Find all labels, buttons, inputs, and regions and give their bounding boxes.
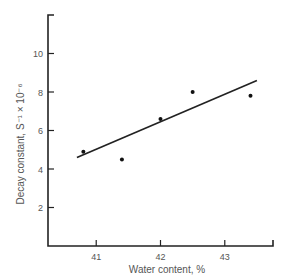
data-series: [77, 80, 257, 161]
x-tick-label: 42: [155, 252, 165, 262]
y-tick-label: 2: [38, 203, 43, 213]
y-tick-label: 4: [38, 165, 43, 175]
y-tick-label: 6: [38, 126, 43, 136]
y-tick-label: 8: [38, 88, 43, 98]
y-tick-label: 10: [33, 49, 43, 59]
fit-line: [77, 80, 257, 157]
axes: [48, 15, 273, 246]
scatter-chart: 246810414243 Water content, % Decay cons…: [0, 0, 283, 279]
x-tick-label: 41: [91, 252, 101, 262]
axis-ticks: 246810414243: [33, 49, 230, 262]
data-point: [191, 90, 195, 94]
data-point: [81, 150, 85, 154]
x-axis-label: Water content, %: [129, 264, 205, 275]
x-tick-label: 43: [220, 252, 230, 262]
data-point: [120, 157, 124, 161]
data-point: [249, 94, 253, 98]
axis-lines: [48, 15, 273, 246]
y-axis-label: Decay constant, S⁻¹ × 10⁻⁶: [15, 83, 26, 204]
